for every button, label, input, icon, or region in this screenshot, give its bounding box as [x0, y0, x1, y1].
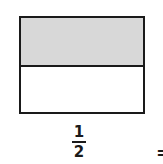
- fraction-label: 1 2: [70, 124, 88, 160]
- shaded-half: [21, 18, 143, 67]
- fraction-numerator: 1: [70, 124, 88, 140]
- equals-sign: =: [156, 144, 163, 162]
- fraction-denominator: 2: [70, 144, 88, 160]
- fraction-rectangle: [19, 16, 145, 114]
- unshaded-half: [21, 67, 143, 112]
